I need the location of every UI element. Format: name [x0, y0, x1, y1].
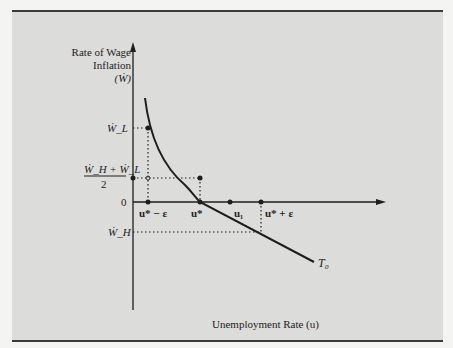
curve-label-t0: T₀ [318, 257, 329, 269]
phillips-curve-diagram [0, 0, 453, 348]
y-axis-label-line1: Rate of Wage [72, 46, 131, 58]
point-u-star-minus [146, 200, 151, 205]
point-u1 [228, 200, 233, 205]
tick-w-l: Ẇ_L [107, 122, 128, 134]
tick-u-star-plus: u* + ε [265, 207, 293, 219]
point-u-star [198, 200, 203, 205]
point-mid-ustar [198, 176, 203, 181]
point-wl-axis [146, 126, 151, 131]
y-axis-label-line2: Inflation [93, 59, 131, 71]
curve-t0 [145, 98, 314, 262]
tick-w-h: Ẇ_H [108, 226, 131, 238]
tick-u-1: u₁ [234, 207, 243, 219]
y-axis-label-line3: (Ẇ) [115, 72, 132, 84]
tick-u-star: u* [191, 207, 203, 219]
tick-mid-numerator: Ẇ_H + Ẇ_L [84, 163, 140, 175]
x-axis-label: Unemployment Rate (u) [212, 318, 319, 330]
x-axis-arrow-icon [376, 199, 386, 205]
tick-zero: 0 [121, 196, 127, 208]
point-u-star-plus [259, 200, 264, 205]
tick-u-star-minus: u* − ε [139, 207, 167, 219]
point-mid-axis [131, 176, 136, 181]
tick-mid-denominator: 2 [101, 178, 107, 190]
